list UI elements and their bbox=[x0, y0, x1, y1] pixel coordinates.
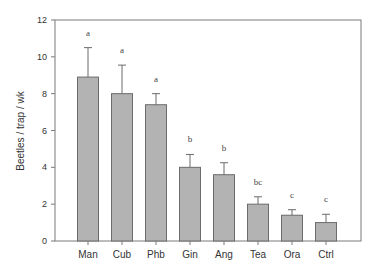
y-tick-label: 0 bbox=[42, 236, 47, 246]
bar bbox=[146, 105, 167, 241]
y-tick-label: 4 bbox=[42, 162, 47, 172]
x-tick-label: Ang bbox=[215, 249, 233, 260]
x-tick-label: Phb bbox=[147, 249, 165, 260]
bar bbox=[316, 223, 337, 241]
bar bbox=[78, 77, 99, 241]
bar-group-ora: c bbox=[282, 190, 303, 241]
y-tick-label: 2 bbox=[42, 199, 47, 209]
bars: aaabbbccc bbox=[78, 28, 337, 241]
x-tick-label: Gin bbox=[182, 249, 198, 260]
bar-group-phb: a bbox=[146, 74, 167, 241]
x-axis: ManCubPhbGinAngTeaOraCtrl bbox=[78, 241, 334, 260]
significance-letter: b bbox=[188, 134, 193, 144]
y-tick-label: 8 bbox=[42, 89, 47, 99]
plot-border bbox=[55, 20, 361, 241]
y-tick-label: 10 bbox=[37, 52, 47, 62]
x-tick-label: Man bbox=[78, 249, 97, 260]
bar-group-cub: a bbox=[112, 45, 133, 241]
significance-letter: c bbox=[324, 194, 328, 204]
significance-letter: b bbox=[222, 143, 227, 153]
plot-frame bbox=[55, 20, 361, 241]
bar-group-ctrl: c bbox=[316, 194, 337, 241]
bar bbox=[248, 204, 269, 241]
significance-letter: a bbox=[154, 74, 158, 84]
bar bbox=[214, 175, 235, 241]
bar-group-ang: b bbox=[214, 143, 235, 241]
bar bbox=[112, 94, 133, 241]
x-tick-label: Ora bbox=[284, 249, 301, 260]
bar-group-gin: b bbox=[180, 134, 201, 241]
significance-letter: a bbox=[86, 28, 90, 38]
significance-letter: bc bbox=[254, 177, 263, 187]
x-tick-label: Cub bbox=[113, 249, 132, 260]
bar-group-man: a bbox=[78, 28, 99, 241]
significance-letter: a bbox=[120, 45, 124, 55]
y-axis-title: Beetles / trap / wk bbox=[15, 90, 26, 170]
bar bbox=[282, 215, 303, 241]
x-tick-label: Tea bbox=[250, 249, 267, 260]
y-tick-label: 12 bbox=[37, 15, 47, 25]
y-tick-label: 6 bbox=[42, 126, 47, 136]
bar-group-tea: bc bbox=[248, 177, 269, 241]
significance-letter: c bbox=[290, 190, 294, 200]
y-axis: 024681012 bbox=[37, 15, 55, 246]
bar bbox=[180, 167, 201, 241]
bar-chart: 024681012 aaabbbccc ManCubPhbGinAngTeaOr… bbox=[0, 0, 379, 272]
x-tick-label: Ctrl bbox=[318, 249, 334, 260]
